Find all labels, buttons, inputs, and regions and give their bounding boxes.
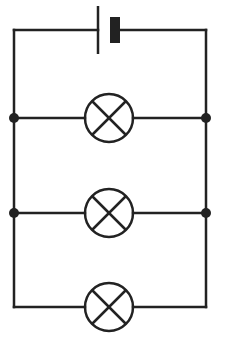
lamp-icon: [85, 94, 133, 142]
junction-dot: [9, 208, 19, 218]
cell-icon: [98, 6, 120, 54]
circuit-diagram: [0, 0, 242, 350]
junction-dot: [201, 208, 211, 218]
lamp-icon: [85, 189, 133, 237]
lamp-icon: [85, 283, 133, 331]
junction-dot: [9, 113, 19, 123]
junction-dot: [201, 113, 211, 123]
